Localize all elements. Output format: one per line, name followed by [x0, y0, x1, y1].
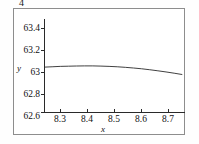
- x-axis-title: x: [101, 124, 105, 134]
- x-tick-label: 8.5: [101, 114, 127, 124]
- x-tick-label: 8.7: [155, 114, 181, 124]
- x-tick-label: 8.6: [128, 114, 154, 124]
- y-tick-label: 62.8: [23, 90, 40, 99]
- figure-number: 4: [19, 0, 24, 8]
- y-tick-label: 63.4: [23, 24, 40, 33]
- y-tick-label: 63: [31, 68, 41, 77]
- x-tick-label: 8.3: [47, 114, 73, 124]
- figure-container: 4 63.4 63.2 63 62.8 62.6 y 8.3 8.4 8.5 8…: [0, 0, 199, 144]
- y-axis-title: y: [17, 63, 21, 73]
- plot-curve: [44, 19, 185, 113]
- x-tick-label: 8.4: [74, 114, 100, 124]
- y-tick-label: 62.6: [23, 112, 40, 121]
- y-tick-label: 63.2: [23, 46, 40, 55]
